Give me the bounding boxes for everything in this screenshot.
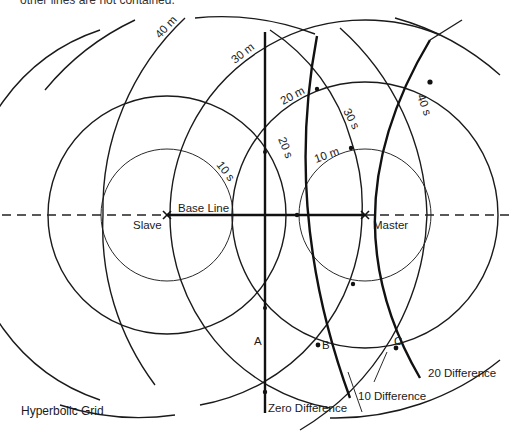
intersection-dot bbox=[349, 146, 353, 150]
intersection-dot bbox=[295, 213, 299, 217]
point-a-label: A bbox=[254, 335, 262, 347]
figure-caption: Hyperbolic Grid bbox=[21, 404, 104, 418]
master-range-label-30m: 30 m bbox=[229, 40, 257, 65]
master-label: Master bbox=[373, 219, 408, 231]
point-c-label: C bbox=[394, 335, 402, 347]
twenty-difference-extension bbox=[430, 20, 462, 40]
master-range-label-40m: 40 m bbox=[153, 13, 179, 40]
slave-range-label-20s: 20 s bbox=[276, 135, 295, 160]
master-arc-40m-bottom bbox=[103, 215, 155, 385]
zero-difference-dot bbox=[263, 390, 267, 394]
intersection-dot bbox=[315, 87, 319, 91]
twenty-difference-tick bbox=[374, 352, 387, 382]
ten-difference-label: 10 Difference bbox=[358, 390, 426, 402]
slave-range-label-10s: 10 s bbox=[214, 159, 237, 184]
intersection-dot bbox=[351, 282, 355, 286]
intersection-dot bbox=[427, 79, 432, 84]
master-arc-outer-topright bbox=[395, 18, 500, 75]
intersection-dot bbox=[263, 306, 267, 310]
baseline-label: Base Line bbox=[178, 202, 229, 214]
twenty-difference-hyperbola bbox=[375, 40, 430, 378]
range-circles bbox=[0, 17, 500, 430]
slave-label: Slave bbox=[133, 219, 162, 231]
twenty-difference-label: 20 Difference bbox=[428, 367, 496, 379]
slave-arc-40s-topleft bbox=[45, 20, 135, 90]
slave-range-label-40s: 40 s bbox=[415, 93, 434, 118]
hyperbolic-grid-diagram: Base Line Slave Master 40 m 30 m 20 m 10… bbox=[0, 0, 519, 442]
zero-difference-label: Zero Difference bbox=[268, 402, 347, 414]
intersection-dot bbox=[263, 150, 267, 154]
point-b-label: B bbox=[322, 339, 330, 351]
point-b-dot bbox=[316, 343, 321, 348]
